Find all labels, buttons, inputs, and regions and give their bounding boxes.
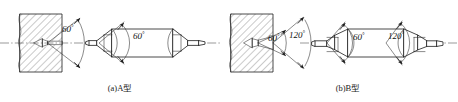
tool-b-cone-120-left xyxy=(335,29,348,57)
workpiece-b xyxy=(229,14,273,72)
angle-leg-b120-bot xyxy=(273,43,303,68)
tool-b-cone-120-right xyxy=(404,29,418,57)
caption-panel-a: (a)A型 xyxy=(108,83,133,93)
arc-arrow-b120-bot xyxy=(298,63,304,69)
center-drill-figure: 60° xyxy=(0,0,458,102)
tool-b xyxy=(300,29,458,57)
tool-b-shank-tip-right xyxy=(437,41,443,47)
tool-b-pilot-shank xyxy=(315,41,327,47)
arc-arrow-b-tool60-bot xyxy=(340,57,345,63)
panel-a: 60° xyxy=(0,14,222,93)
tool-a-pilot-tip xyxy=(86,41,89,46)
workpiece-b-inner-cone xyxy=(252,39,258,48)
workpiece-a xyxy=(18,14,62,72)
arc-60-b xyxy=(284,32,286,54)
arc-arrow-a-bot xyxy=(75,63,80,68)
arc-arrow-a-top xyxy=(75,19,80,24)
arc-arrow-b-tool120-bot xyxy=(397,58,402,64)
angle-label-b-workpiece-60: 60° xyxy=(268,33,280,43)
arc-arrow-b120-top xyxy=(298,18,304,24)
tool-a-pilot-shank xyxy=(89,41,97,46)
arc-arrow-b-tool120-top xyxy=(397,22,402,28)
tool-b-pilot-tip xyxy=(312,41,315,47)
angle-label-b-workpiece-120: 120° xyxy=(289,30,306,40)
caption-panel-b: (b)B型 xyxy=(336,83,361,93)
technical-drawing-canvas: 60° xyxy=(0,0,458,102)
arc-arrow-b-tool60-top xyxy=(340,23,345,29)
panel-b: 60° 120° xyxy=(229,14,458,93)
tool-a-cone-right xyxy=(173,29,188,57)
angle-label-a-workpiece: 60° xyxy=(62,24,74,34)
tool-a-shank-right xyxy=(188,41,199,46)
tool-b-shank-right xyxy=(427,41,437,47)
tool-a-shank-tip-right xyxy=(199,41,205,46)
